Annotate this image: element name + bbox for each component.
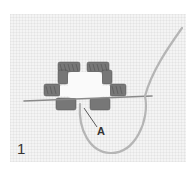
callout-label-a: A [97, 125, 105, 137]
figure: A 1 [0, 0, 196, 172]
callout-leader-a [84, 108, 97, 127]
figure-number: 1 [17, 140, 25, 157]
embroidery-illustration [0, 0, 196, 172]
